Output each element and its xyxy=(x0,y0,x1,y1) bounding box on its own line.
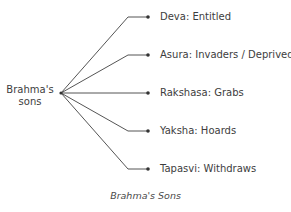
root-node-dot xyxy=(59,91,62,94)
node-dot-rakshasa xyxy=(146,91,150,95)
node-dot-tapasvi xyxy=(146,167,150,171)
branch-label-asura: Asura: Invaders / Deprived xyxy=(160,49,291,61)
root-label-line2: sons xyxy=(2,96,58,108)
connector-asura xyxy=(61,55,148,93)
figure-caption: Brahma's Sons xyxy=(0,190,291,201)
connector-yaksha xyxy=(61,93,148,131)
branch-label-deva: Deva: Entitled xyxy=(160,11,231,23)
root-label: Brahma's sons xyxy=(2,84,58,108)
node-dot-deva xyxy=(146,15,150,19)
root-label-line1: Brahma's xyxy=(2,84,58,96)
node-dot-asura xyxy=(146,53,150,57)
branch-label-yaksha: Yaksha: Hoards xyxy=(160,125,236,137)
node-dot-yaksha xyxy=(146,129,150,133)
branch-label-tapasvi: Tapasvi: Withdraws xyxy=(160,163,256,175)
branch-label-rakshasa: Rakshasa: Grabs xyxy=(160,87,244,99)
